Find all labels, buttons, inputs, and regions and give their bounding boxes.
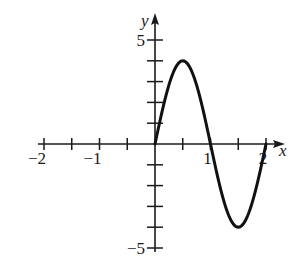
y-tick-label: 5 (137, 31, 146, 50)
x-tick-label: −2 (28, 149, 46, 168)
x-axis-label: x (278, 141, 287, 160)
y-tick-label: −5 (127, 239, 145, 258)
x-tick-label: −1 (83, 149, 101, 168)
y-axis-label: y (139, 11, 149, 30)
x-tick-label: 1 (203, 149, 212, 168)
function-graph: −2−1125−5 x y (0, 0, 299, 277)
